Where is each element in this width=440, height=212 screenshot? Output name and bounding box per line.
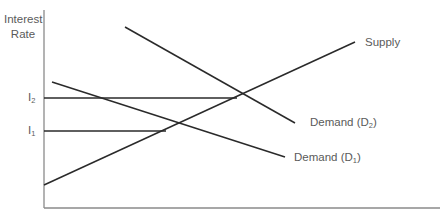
level-label-i2: I2: [28, 92, 35, 105]
demand-d1-curve: [52, 82, 285, 157]
y-axis-label-line1: Interest: [4, 12, 42, 27]
demand-d1-label: Demand (D1): [294, 152, 361, 165]
diagram-canvas: [0, 0, 440, 212]
y-axis-label-line2: Rate: [4, 27, 42, 42]
demand-d2-label: Demand (D2): [310, 117, 377, 130]
y-axis-label: Interest Rate: [4, 12, 42, 42]
level-label-i1: I1: [28, 125, 35, 138]
supply-label: Supply: [365, 37, 400, 49]
